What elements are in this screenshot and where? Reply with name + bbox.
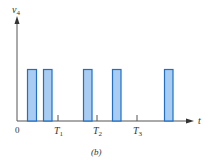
y-axis-label: v4	[12, 4, 20, 17]
pulse-1	[28, 70, 37, 122]
pulse-4	[113, 70, 122, 122]
x-axis-label: t	[198, 115, 201, 126]
pulse-train	[28, 70, 174, 122]
y-axis-arrow-icon	[15, 16, 20, 24]
pulse-2	[44, 70, 53, 122]
tick-label-T1: T1	[54, 125, 64, 138]
pulse-diagram: v4 t 0 T1 T2 T3 (b)	[0, 0, 205, 166]
x-axis-arrow-icon	[186, 119, 194, 124]
pulse-5	[165, 70, 174, 122]
origin-label: 0	[15, 125, 20, 135]
tick-label-T3: T3	[133, 125, 143, 138]
tick-label-T2: T2	[93, 125, 103, 138]
figure-caption: (b)	[91, 147, 102, 157]
pulse-3	[84, 70, 93, 122]
